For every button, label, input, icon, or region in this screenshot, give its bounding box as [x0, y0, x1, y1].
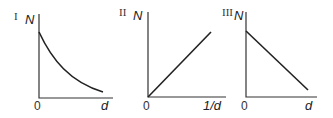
panel-3-x-label: d: [305, 98, 313, 113]
panel-1-axes: [39, 14, 113, 98]
panel-3: III N 0 d: [222, 6, 317, 113]
panel-3-axes: [246, 12, 317, 97]
panel-2-x-label: 1/d: [203, 98, 222, 113]
panel-1-y-label: N: [25, 12, 35, 27]
panel-3-linear-line: [246, 31, 308, 90]
panel-2-numeral: II: [119, 6, 127, 18]
panel-1-decay-curve: [39, 32, 103, 92]
panel-3-origin-label: 0: [241, 99, 248, 113]
three-graphs-diagram: I N 0 d II N 0 1/d III N 0 d: [0, 0, 333, 118]
panel-3-y-label: N: [234, 8, 244, 23]
panel-1: I N 0 d: [14, 10, 113, 113]
panel-2-linear-line: [148, 32, 211, 97]
panel-1-numeral: I: [14, 10, 18, 22]
panel-2: II N 0 1/d: [119, 6, 226, 113]
panel-3-numeral: III: [222, 6, 233, 18]
panel-1-x-label: d: [101, 98, 109, 113]
panel-1-origin-label: 0: [34, 99, 41, 113]
panel-2-origin-label: 0: [143, 99, 150, 113]
panel-2-y-label: N: [133, 8, 143, 23]
